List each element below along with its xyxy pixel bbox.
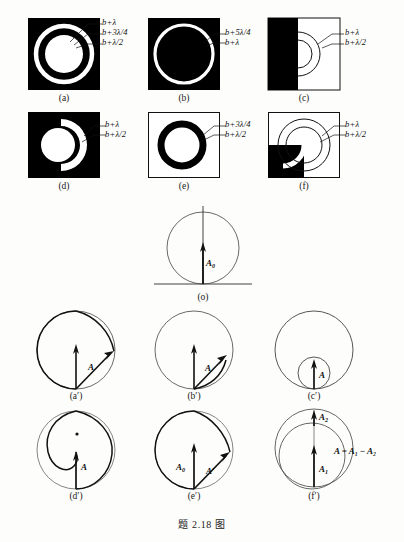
vector-label-A: A — [318, 370, 325, 380]
annotation-b-lambda: b+λ — [102, 17, 116, 27]
leader-line — [82, 135, 106, 142]
panel-c-label: (c) — [268, 93, 340, 103]
panel-o-graphic: A0 — [148, 202, 258, 294]
panel-d-leaders — [76, 122, 108, 148]
panel-b-prime: A — [148, 308, 240, 392]
annotation-b-5lambda-4: b+5λ/4 — [225, 27, 251, 37]
annotation-b-lambda: b+λ — [105, 119, 119, 129]
panel-f-label: (f) — [268, 181, 340, 191]
leader-line — [204, 34, 226, 43]
spiral-arc — [76, 311, 114, 351]
panel-b-prime-label: (b′) — [148, 391, 240, 401]
center-dot — [75, 432, 78, 435]
panel-b-label: (b) — [148, 93, 220, 103]
leader-line — [320, 135, 346, 142]
vector-label-A: A — [204, 363, 211, 373]
panel-e-prime-label: (e′) — [148, 491, 240, 501]
annotation-b-lambda: b+λ — [345, 27, 359, 37]
vector-label-A: A — [87, 362, 94, 372]
left-half-arc — [155, 411, 194, 489]
panel-c-prime: A — [268, 308, 360, 392]
white-inner-disk — [41, 128, 75, 162]
panel-a-prime: A — [30, 308, 122, 392]
annotation-b-lambda-2: b+λ/2 — [105, 129, 126, 139]
panel-a-prime-label: (a′) — [30, 391, 122, 401]
vector-label-A1: A1 — [318, 464, 328, 475]
panel-a-label: (a) — [28, 93, 100, 103]
spiral-arc — [194, 411, 230, 452]
panel-c-leaders — [312, 30, 346, 56]
figure-page: (a) b+λ b+3λ/4 b+λ/2 (b) b+5λ/4 b+λ (c) … — [0, 0, 404, 542]
panel-e-label: (e) — [148, 181, 220, 191]
panel-b-leaders — [196, 30, 228, 56]
vector-label-A-prime: A′ — [205, 466, 215, 476]
panel-c-prime-label: (c′) — [268, 391, 360, 401]
vector-label-A0: A0 — [175, 462, 185, 473]
leader-line — [84, 126, 106, 136]
annotation-b-lambda: b+λ — [345, 119, 359, 129]
annotation-b-lambda-2: b+λ/2 — [225, 129, 246, 139]
panel-d-prime-graphic: A — [30, 408, 122, 492]
leader-line — [76, 44, 102, 48]
vector-label-A0: A0 — [205, 258, 215, 269]
leader-line — [74, 34, 102, 45]
s-spiral-lower — [76, 411, 112, 489]
panel-b-prime-graphic: A — [148, 308, 240, 392]
panel-d-prime-label: (d′) — [30, 491, 122, 501]
leader-line — [322, 126, 346, 136]
annotation-b-lambda-2: b+λ/2 — [102, 37, 123, 47]
panel-o-label: (o) — [148, 292, 258, 302]
equation-A-difference: A = A₁ − A₂ — [334, 446, 376, 456]
leader-line — [70, 24, 102, 42]
leader-line — [206, 43, 226, 46]
panel-f-leaders — [318, 122, 348, 148]
vector-label-A: A — [80, 462, 87, 472]
annotation-b-lambda-2: b+λ/2 — [345, 129, 366, 139]
black-half — [268, 18, 298, 90]
left-half-arc — [37, 311, 76, 389]
leader-line — [318, 34, 344, 44]
annotation-b-lambda: b+λ — [225, 37, 239, 47]
panel-d-prime: A — [30, 408, 122, 492]
inner-circle — [279, 423, 345, 489]
figure-caption: 题 2.18 图 — [0, 516, 404, 531]
vector-label-A2: A2 — [318, 412, 328, 423]
panel-f-prime-label: (f′) — [268, 491, 360, 501]
annotation-b-lambda-2: b+λ/2 — [345, 37, 366, 47]
leader-line — [202, 126, 226, 136]
panel-o: A0 — [148, 202, 258, 294]
panel-e-leaders — [196, 122, 228, 148]
panel-d-label: (d) — [28, 181, 100, 191]
panel-e-prime: A0 A′ — [148, 408, 240, 492]
leader-line — [200, 135, 226, 142]
annotation-b-3lambda-4: b+3λ/4 — [225, 119, 251, 129]
panel-a-leaders — [58, 20, 104, 60]
panel-a-prime-graphic: A — [30, 308, 122, 392]
panel-c-prime-graphic: A — [268, 308, 360, 392]
leader-line — [322, 44, 344, 48]
panel-e-prime-graphic: A0 A′ — [148, 408, 240, 492]
annotation-b-3lambda-4: b+3λ/4 — [102, 27, 128, 37]
